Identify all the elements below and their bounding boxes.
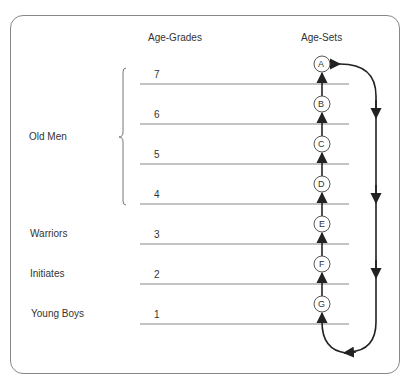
- age-set-label-f: F: [319, 258, 325, 270]
- grade-lines: [140, 84, 349, 324]
- old-men-brace: [119, 68, 126, 205]
- age-set-label-c: C: [318, 138, 325, 150]
- age-set-label-d: D: [318, 178, 325, 190]
- return-loop-arrow: [322, 64, 376, 353]
- age-set-label-e: E: [319, 218, 325, 230]
- age-set-label-g: G: [318, 298, 325, 310]
- age-set-label-b: B: [318, 98, 324, 110]
- age-set-diagram: [0, 0, 410, 383]
- age-set-label-a: A: [318, 58, 324, 70]
